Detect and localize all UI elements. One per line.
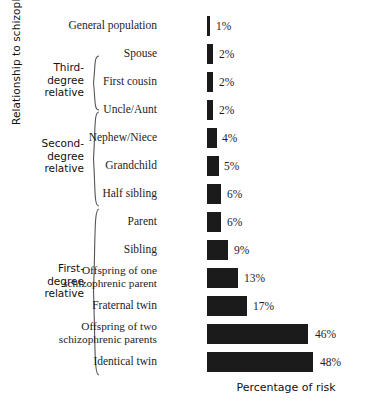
- category-label: Uncle/Aunt: [0, 103, 157, 116]
- category-label-line2: schizophrenic parent: [0, 277, 157, 290]
- chart-row: Nephew/Niece 4%: [0, 128, 365, 148]
- bar: [207, 240, 228, 260]
- category-label: Parent: [0, 215, 157, 228]
- bar: [207, 16, 210, 36]
- value-label: 6%: [227, 184, 242, 204]
- category-label: Grandchild: [0, 159, 157, 172]
- category-label: Sibling: [0, 243, 157, 256]
- bar: [207, 352, 313, 372]
- value-label: 48%: [320, 352, 341, 372]
- category-label: General population: [0, 19, 157, 32]
- value-label: 1%: [216, 16, 231, 36]
- bar-chart-plot-area: General population 1% Spouse 2% First co…: [0, 0, 365, 407]
- category-label-line2: schizophrenic parents: [0, 333, 157, 346]
- bar: [207, 296, 247, 316]
- value-label: 2%: [219, 44, 234, 64]
- category-label-line1: Offspring of one: [82, 264, 157, 276]
- chart-row: Grandchild 5%: [0, 156, 365, 176]
- chart-row: Sibling 9%: [0, 240, 365, 260]
- x-axis-title: Percentage of risk: [207, 381, 365, 394]
- bar: [207, 156, 219, 176]
- value-label: 17%: [253, 296, 274, 316]
- chart-row: Offspring of one schizophrenic parent 13…: [0, 268, 365, 288]
- category-label: Nephew/Niece: [0, 131, 157, 144]
- category-label: First cousin: [0, 75, 157, 88]
- value-label: 5%: [224, 156, 239, 176]
- value-label: 13%: [244, 268, 265, 288]
- category-label: Fraternal twin: [0, 299, 157, 312]
- bar: [207, 100, 213, 120]
- bar: [207, 44, 213, 64]
- value-label: 46%: [315, 324, 336, 344]
- category-label-line1: Offspring of two: [81, 320, 157, 332]
- chart-row: Parent 6%: [0, 212, 365, 232]
- category-label: Half sibling: [0, 187, 157, 200]
- bar: [207, 72, 213, 92]
- category-label: Identical twin: [0, 355, 157, 368]
- bar: [207, 268, 238, 288]
- bar: [207, 128, 217, 148]
- category-label: Spouse: [0, 47, 157, 60]
- value-label: 9%: [234, 240, 249, 260]
- value-label: 4%: [222, 128, 237, 148]
- bar: [207, 184, 221, 204]
- chart-row: Fraternal twin 17%: [0, 296, 365, 316]
- chart-row: First cousin 2%: [0, 72, 365, 92]
- value-label: 2%: [219, 100, 234, 120]
- bar: [207, 324, 308, 344]
- chart-row: Identical twin 48%: [0, 352, 365, 372]
- value-label: 2%: [219, 72, 234, 92]
- category-label: Offspring of one schizophrenic parent: [0, 264, 157, 289]
- category-label: Offspring of two schizophrenic parents: [0, 320, 157, 345]
- chart-row: Offspring of two schizophrenic parents 4…: [0, 324, 365, 344]
- value-label: 6%: [227, 212, 242, 232]
- chart-row: Uncle/Aunt 2%: [0, 100, 365, 120]
- chart-row: Spouse 2%: [0, 44, 365, 64]
- chart-row: General population 1%: [0, 16, 365, 36]
- chart-row: Half sibling 6%: [0, 184, 365, 204]
- bar: [207, 212, 221, 232]
